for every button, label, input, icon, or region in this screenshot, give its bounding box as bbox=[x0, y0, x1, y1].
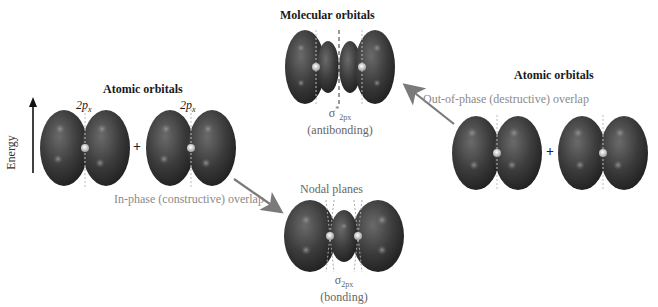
left-atomic-orbitals-title: Atomic orbitals bbox=[103, 82, 183, 97]
right-2px-orbital-1 bbox=[452, 113, 542, 193]
left-plus-sign: + bbox=[133, 139, 141, 155]
energy-axis: Energy bbox=[8, 95, 38, 175]
right-atomic-orbitals-title: Atomic orbitals bbox=[514, 68, 594, 83]
right-2px-orbital-2 bbox=[558, 113, 648, 193]
energy-label: Energy bbox=[4, 135, 19, 169]
left-2px-orbital-1 bbox=[40, 107, 130, 189]
sigma-star-symbol: σ*2px bbox=[290, 103, 390, 124]
bonding-orbital bbox=[284, 198, 404, 274]
antibonding-orbital bbox=[285, 28, 395, 106]
left-2px-orbital-2 bbox=[146, 107, 236, 189]
antibonding-label: σ*2px (antibonding) bbox=[290, 103, 390, 137]
bonding-label: σ2px (bonding) bbox=[294, 274, 394, 304]
bonding-description: (bonding) bbox=[294, 291, 394, 304]
nodal-planes-label: Nodal planes bbox=[300, 182, 363, 197]
molecular-orbitals-title: Molecular orbitals bbox=[280, 8, 375, 23]
sigma-symbol: σ2px bbox=[294, 274, 394, 291]
out-of-phase-overlap-label: Out-of-phase (destructive) overlap bbox=[423, 92, 589, 107]
right-plus-sign: + bbox=[546, 144, 554, 160]
antibonding-description: (antibonding) bbox=[290, 124, 390, 137]
